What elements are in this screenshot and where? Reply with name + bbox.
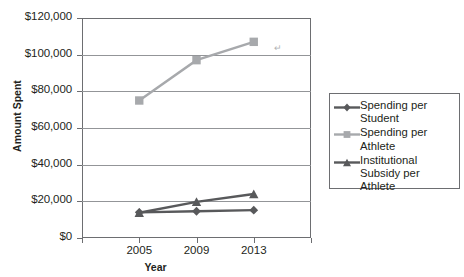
x-tick [82, 238, 83, 243]
y-tick-label: $120,000 [0, 10, 72, 22]
y-tick [77, 18, 82, 19]
legend-item-spending-per-athlete[interactable]: Spending per Athlete [334, 126, 456, 152]
x-tick-label: 2009 [167, 244, 227, 256]
scan-artifact-top [236, 0, 436, 8]
y-tick-label: $0 [0, 230, 72, 242]
y-tick [77, 55, 82, 56]
legend-label-institutional-subsidy-per-athlete: Institutional Subsidy per Athlete [360, 154, 456, 194]
x-tick [139, 238, 140, 243]
x-tick [254, 238, 255, 243]
legend-label-spending-per-student: Spending per Student [360, 99, 456, 125]
x-tick [197, 238, 198, 243]
y-axis-title: Amount Spent [11, 61, 23, 171]
legend-item-institutional-subsidy-per-athlete[interactable]: Institutional Subsidy per Athlete [334, 154, 456, 194]
legend-label-spending-per-athlete: Spending per Athlete [360, 126, 456, 152]
gridline [82, 128, 311, 129]
legend-marker-diamond-icon [334, 103, 360, 112]
y-tick [77, 91, 82, 92]
legend-marker-square-icon [334, 130, 360, 139]
y-tick [77, 165, 82, 166]
y-tick-label: $100,000 [0, 47, 72, 59]
gridline [82, 91, 311, 92]
gridline [82, 201, 311, 202]
legend-marker-triangle-icon [334, 158, 360, 167]
legend-item-spending-per-student[interactable]: Spending per Student [334, 99, 456, 125]
line-chart: $0$20,000$40,000$60,000$80,000$100,000$1… [0, 0, 464, 277]
gridline [82, 55, 311, 56]
y-tick-label: $20,000 [0, 193, 72, 205]
x-tick-label: 2013 [224, 244, 284, 256]
y-tick [77, 201, 82, 202]
x-axis-title: Year [0, 261, 311, 273]
x-tick-label: 2005 [109, 244, 169, 256]
y-tick [77, 128, 82, 129]
legend: Spending per Student Spending per Athlet… [329, 93, 460, 189]
gridline [82, 165, 311, 166]
x-tick [311, 238, 312, 243]
